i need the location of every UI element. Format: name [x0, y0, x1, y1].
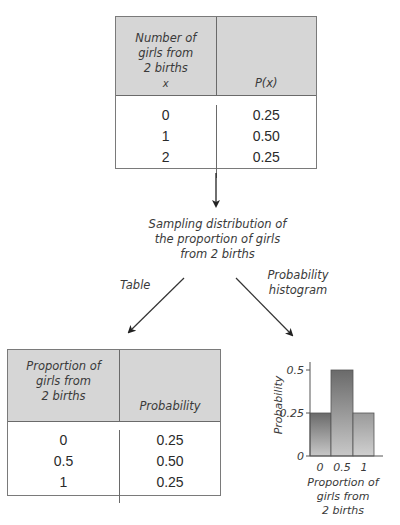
histogram-bar-1 — [353, 413, 374, 456]
x-axis-label-line: Proportion of — [307, 476, 380, 489]
x-tick-label: 1 — [361, 461, 368, 474]
x-axis-label-line: 2 births — [322, 504, 364, 517]
x-tick-label: 0.5 — [333, 461, 351, 474]
histogram-bar-0.5 — [331, 370, 353, 456]
y-tick-label: 0 — [297, 450, 304, 463]
y-axis-label: Probability — [272, 375, 285, 434]
probability-histogram: 0 0.25 0.5 0 0.5 1 Probability Proportio… — [0, 0, 400, 525]
y-tick-label: 0.5 — [287, 364, 305, 377]
histogram-bar-0 — [310, 413, 331, 456]
x-axis-label-line: girls from — [317, 490, 370, 503]
x-tick-label: 0 — [317, 461, 324, 474]
